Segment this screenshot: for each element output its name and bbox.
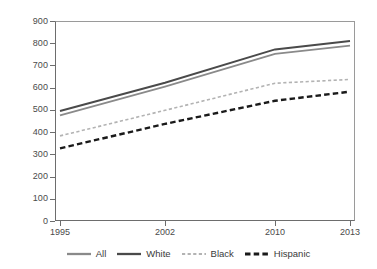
legend-item-hispanic[interactable]: Hispanic	[245, 249, 310, 259]
legend-swatch-white-icon	[117, 249, 141, 259]
series-line-all	[60, 46, 350, 116]
y-tick-mark	[50, 110, 55, 111]
legend-item-black[interactable]: Black	[182, 249, 234, 259]
y-tick-mark	[50, 21, 55, 22]
y-tick-mark	[50, 221, 55, 222]
legend-label: Black	[211, 249, 234, 259]
x-tick-mark	[350, 221, 351, 226]
legend-label: Hispanic	[274, 249, 310, 259]
y-tick-mark	[50, 177, 55, 178]
series-layer	[0, 0, 377, 269]
y-tick-mark	[50, 154, 55, 155]
y-tick-mark	[50, 132, 55, 133]
y-tick-mark	[50, 65, 55, 66]
x-tick-mark	[165, 221, 166, 226]
legend-swatch-black-icon	[182, 249, 206, 259]
legend-label: White	[146, 249, 170, 259]
y-tick-mark	[50, 43, 55, 44]
chart-legend: AllWhiteBlackHispanic	[0, 246, 377, 262]
line-chart: 0100200300400500600700800900 19952002201…	[0, 0, 377, 269]
legend-swatch-all-icon	[67, 249, 91, 259]
legend-swatch-hispanic-icon	[245, 249, 269, 259]
legend-label: All	[96, 249, 107, 259]
legend-item-white[interactable]: White	[117, 249, 170, 259]
y-tick-mark	[50, 88, 55, 89]
series-line-white	[60, 41, 350, 111]
x-tick-mark	[275, 221, 276, 226]
legend-item-all[interactable]: All	[67, 249, 107, 259]
series-line-black	[60, 79, 350, 135]
y-tick-mark	[50, 199, 55, 200]
x-tick-mark	[60, 221, 61, 226]
